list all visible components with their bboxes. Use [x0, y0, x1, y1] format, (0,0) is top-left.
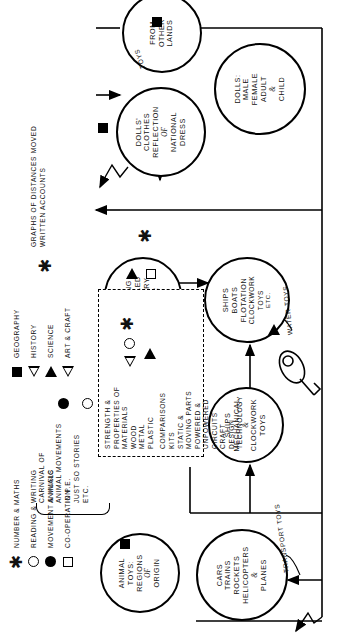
node-line: ADULT — [260, 76, 269, 102]
box-line: POWERED & — [194, 297, 203, 449]
diagram-canvas: CARS TRAINS ROCKETS HELICOPTERS & PLANES… — [0, 0, 341, 635]
node-line: TOYS — [259, 414, 268, 436]
node-dolls-male-female-adult-child[interactable]: DOLLS: MALE FEMALE ADULT & CHILD — [214, 43, 306, 135]
circle-outline-icon — [28, 555, 39, 569]
asterisk-icon: ✱ — [11, 555, 22, 569]
graphs-note: GRAPHS OF DISTANCES MOVED WRITTEN ACCOUN… — [30, 126, 47, 247]
legend-item: MOVEMENT & MUSIC — [42, 469, 59, 569]
box-line: UNPOWERED — [202, 297, 211, 449]
node-line: HELICOPTERS — [242, 546, 251, 603]
triangle-filled-icon — [144, 348, 156, 359]
legend-item: SCIENCE — [42, 307, 59, 379]
node-line: ETC. — [265, 292, 272, 308]
box-line: COMPARISONS — [159, 297, 168, 449]
note-line: WRITTEN ACCOUNTS — [39, 126, 48, 247]
square-filled-icon — [12, 365, 22, 379]
node-line: CLOCKWORK — [248, 276, 256, 325]
circle-outline-icon — [82, 398, 93, 409]
node-line: ORIGIN — [153, 558, 162, 587]
node-animal-toys-regions[interactable]: ANIMAL TOYS: REGIONS OF ORIGIN — [100, 533, 180, 613]
circle-filled-icon — [45, 555, 56, 569]
triangle-outline-icon — [62, 365, 74, 379]
triangle-filled-icon — [268, 324, 280, 335]
list-item: ETC. — [82, 423, 91, 503]
legend-item: ✱ NUMBER & MATHS — [8, 469, 25, 569]
box-line: KITS — [168, 297, 177, 449]
triangle-filled-icon — [45, 365, 57, 379]
box-line: CIRCUITS — [211, 297, 220, 449]
node-line: REFLECTION — [152, 106, 161, 158]
legend-label: HISTORY — [30, 324, 37, 358]
legend-label: MOVEMENT & MUSIC — [47, 470, 54, 549]
node-line: CHILD — [278, 77, 287, 102]
legend-item: CO-OPERATION — [59, 469, 76, 569]
asterisk-icon: ✱ — [140, 229, 151, 243]
box-line: TECHNOLOGY — [236, 297, 245, 449]
triangle-outline-icon — [124, 356, 136, 367]
triangle-outline-icon — [28, 365, 40, 379]
box-line: STRENGTH & — [104, 297, 113, 449]
materials-technology-box: STRENGTH & PROPERTIES OF MATERIALS WOOD … — [98, 289, 204, 457]
legend-item: ART & CRAFT — [59, 307, 76, 379]
node-line: LANDS — [166, 20, 175, 47]
node-line: TOYS — [257, 290, 265, 310]
legend-column-one: ✱ NUMBER & MATHS READING & WRITING MOVEM… — [8, 469, 76, 569]
legend-label: CO-OPERATION — [64, 489, 71, 548]
square-filled-icon — [120, 539, 130, 549]
legend-label: NUMBER & MATHS — [13, 479, 20, 548]
circle-outline-icon — [124, 338, 135, 349]
legend-label: READING & WRITING — [30, 469, 37, 548]
box-line: DESIGN — [228, 297, 237, 449]
asterisk-icon: ✱ — [40, 259, 51, 273]
legend-label: SCIENCE — [47, 324, 54, 358]
node-line: DRESS — [179, 118, 188, 146]
box-line: STATIC & — [177, 297, 186, 449]
square-filled-icon — [152, 17, 162, 27]
legend-item: HISTORY — [25, 307, 42, 379]
square-outline-icon — [63, 555, 73, 569]
square-outline-icon — [146, 269, 156, 279]
asterisk-icon: ✱ — [122, 317, 133, 331]
box-line: MOVING PARTS — [185, 297, 194, 449]
legend-column-two: GEOGRAPHY HISTORY SCIENCE ART & CRAFT — [8, 307, 76, 379]
node-dolls-clothes-national-dress[interactable]: DOLLS' CLOTHES REFLECTION OF NATIONAL DR… — [116, 87, 206, 177]
circle-filled-icon — [58, 398, 69, 409]
node-line: REGIONS — [136, 554, 145, 591]
node-transport-toys[interactable]: CARS TRAINS ROCKETS HELICOPTERS & PLANES — [196, 529, 288, 621]
legend-item: GEOGRAPHY — [8, 307, 25, 379]
note-line: GRAPHS OF DISTANCES MOVED — [30, 126, 39, 247]
triangle-filled-icon — [126, 268, 138, 279]
box-line: METAL — [138, 297, 147, 449]
box-line: PLASTIC — [147, 297, 156, 449]
legend-item: READING & WRITING — [25, 469, 42, 569]
legend-label: ART & CRAFT — [64, 307, 71, 358]
legend-label: GEOGRAPHY — [13, 309, 20, 358]
box-line: CRAFT — [219, 297, 228, 449]
node-line: PLANES — [260, 559, 269, 591]
square-filled-icon — [98, 123, 108, 133]
